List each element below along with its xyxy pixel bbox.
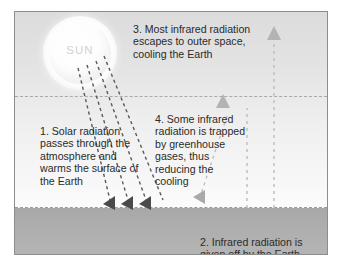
- sun-label: SUN: [49, 44, 111, 56]
- earth-surface-line: [15, 207, 327, 208]
- atmosphere-boundary-line: [15, 96, 327, 97]
- caption-step-4: 4. Some infrared radiation is trapped by…: [155, 113, 251, 187]
- caption-step-3: 3. Most infrared radiation escapes to ou…: [133, 23, 283, 60]
- caption-step-1: 1. Solar radiation passes through the at…: [40, 125, 168, 187]
- diagram-canvas: SUN: [0, 0, 340, 266]
- sun: SUN: [49, 22, 111, 84]
- caption-step-2: 2. Infrared radiation is given off by th…: [200, 236, 328, 255]
- diagram-frame: SUN: [14, 11, 328, 255]
